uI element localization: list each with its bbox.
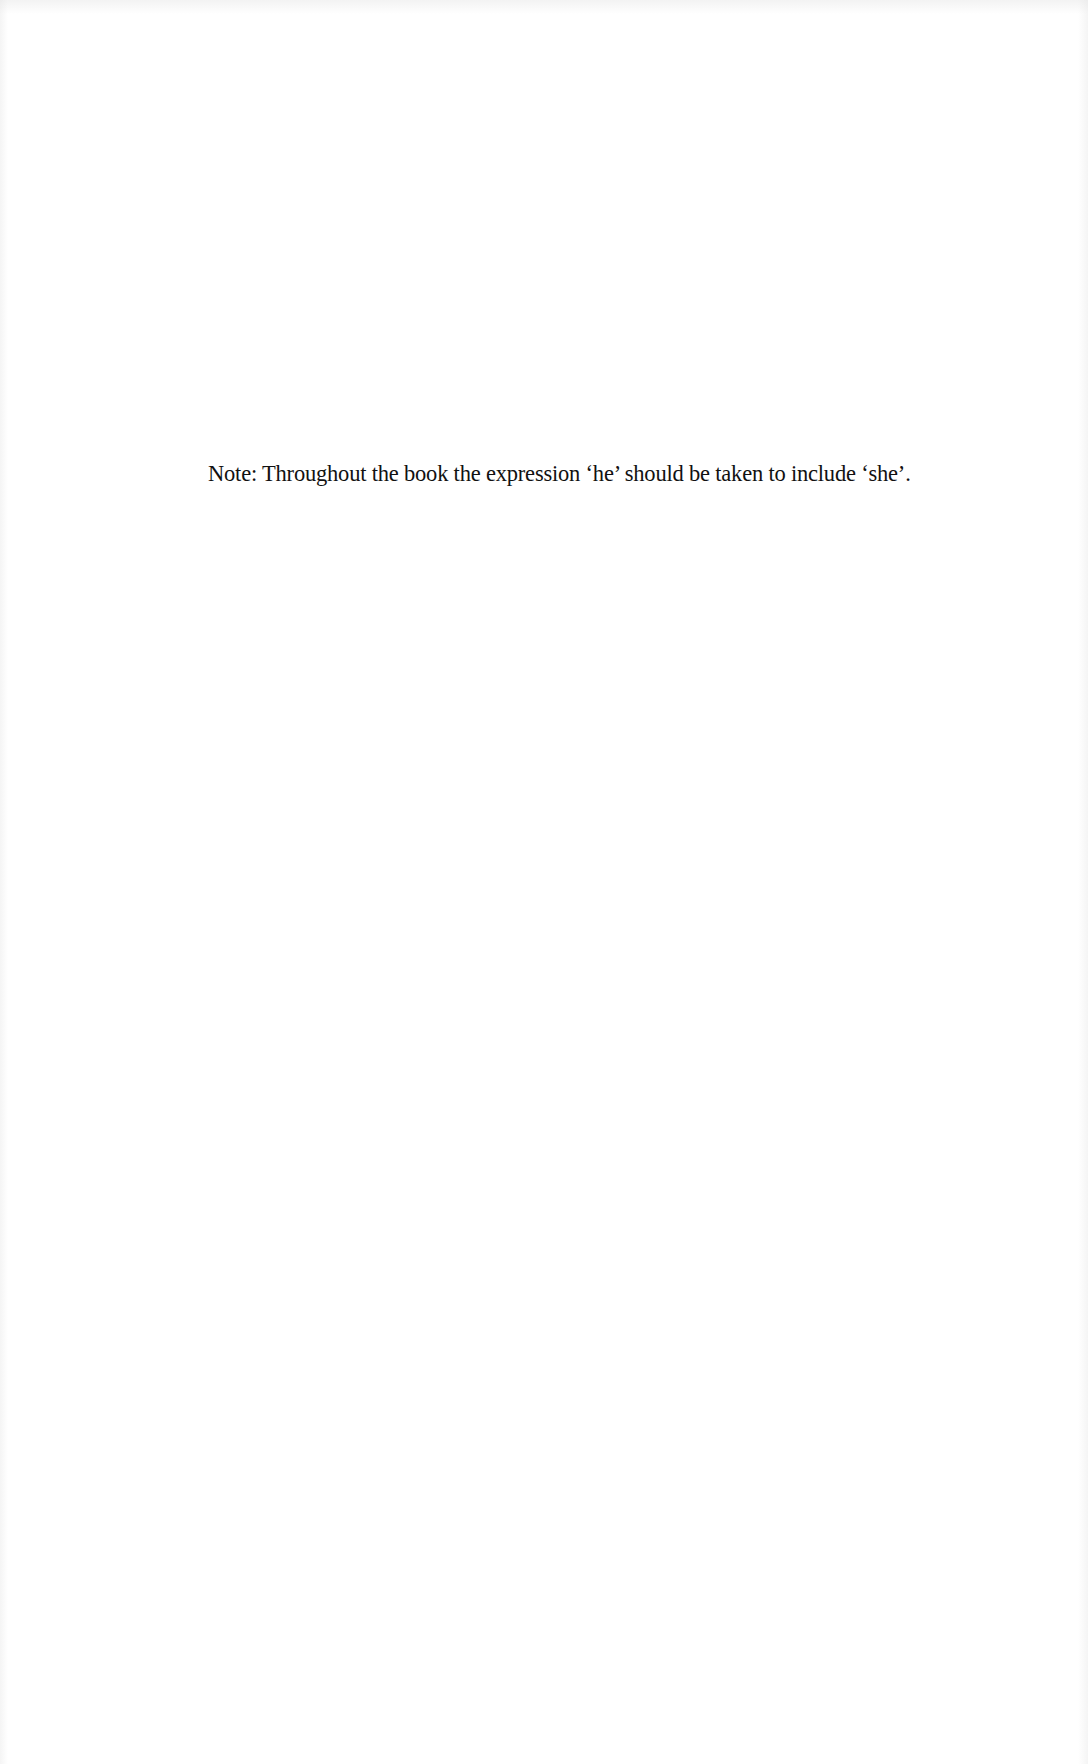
document-page: Note: Throughout the book the expression… [0,0,1088,1764]
scan-edge-shadow-right [1078,0,1088,1764]
scan-edge-shadow-left [0,0,8,1764]
gender-note: Note: Throughout the book the expression… [208,463,911,486]
scan-edge-shadow-top [0,0,1088,14]
